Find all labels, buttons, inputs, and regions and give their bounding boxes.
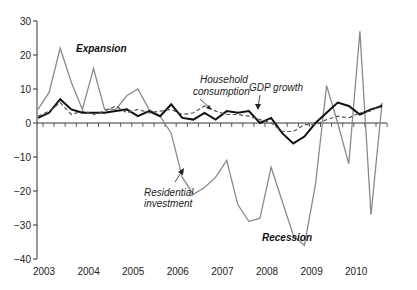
y-tick-label: −10 [14,152,31,163]
y-tick-label: 30 [20,16,32,27]
annotation-residential-line2: investment [144,198,194,209]
y-tick-label: −40 [14,254,31,265]
household-arrow-icon [206,105,212,110]
x-tick-label: 2006 [167,266,190,277]
annotations: Expansion Household consumption GDP grow… [76,43,312,243]
series-layer [38,31,382,245]
x-tick-label: 2008 [256,266,279,277]
annotation-household-line1: Household [200,74,248,85]
x-tick-label: 2010 [345,266,368,277]
x-axis: 20032004200520062007200820092010 [33,123,387,277]
y-tick-label: 0 [25,118,31,129]
y-tick-label: −30 [14,220,31,231]
annotation-recession: Recession [262,232,312,243]
y-tick-label: −20 [14,186,31,197]
x-tick-label: 2007 [211,266,234,277]
line-chart: −40−30−20−100102030 20032004200520062007… [0,0,417,290]
y-tick-label: 20 [20,50,32,61]
annotation-expansion: Expansion [76,43,127,54]
x-tick-label: 2005 [122,266,145,277]
annotation-household-line2: consumption [193,86,250,97]
series-gdp-growth [38,99,382,143]
annotation-gdp: GDP growth [249,82,304,93]
x-tick-label: 2003 [33,266,56,277]
series-residential-investment [38,31,382,245]
gdp-arrow-icon [255,104,261,110]
y-tick-label: 10 [20,84,32,95]
x-tick-label: 2004 [77,266,100,277]
y-axis: −40−30−20−100102030 [14,16,37,265]
annotation-residential-line1: Residential [144,187,194,198]
x-tick-label: 2009 [300,266,323,277]
